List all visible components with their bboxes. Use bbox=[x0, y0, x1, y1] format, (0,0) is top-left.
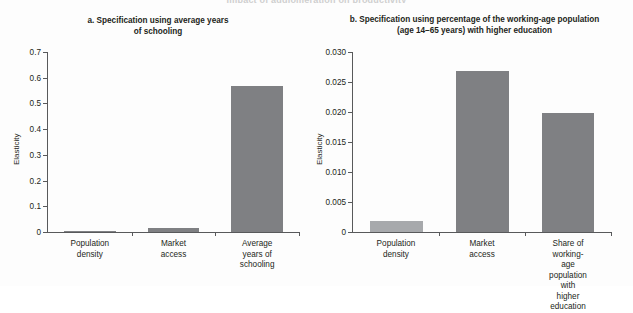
bar-market-access-b bbox=[456, 71, 509, 232]
panel-a-xlabel-0-line1: Population bbox=[70, 239, 109, 248]
panel-b-xlabel-2-line3: higher education bbox=[550, 292, 586, 312]
panel-a-ytick-6 bbox=[43, 206, 48, 207]
panel-b-ytick-label-5: 0.005 bbox=[326, 197, 347, 206]
panel-b-xlabel-2: Share of working-age population with hig… bbox=[546, 239, 589, 313]
panel-a-y-axis-label: Elasticity bbox=[12, 133, 21, 165]
panel-a-xlabel-2-line1: Average years of bbox=[242, 239, 272, 259]
panel-a-ytick-5 bbox=[43, 181, 48, 182]
panel-a-ytick-label-1: 0.6 bbox=[30, 73, 41, 82]
panel-a-ytick-label-5: 0.2 bbox=[30, 176, 41, 185]
panel-a-ytick-label-7: 0 bbox=[36, 228, 41, 237]
bar-average-years-schooling-a bbox=[231, 86, 282, 232]
panel-b-title-line2: (age 14–65 years) with higher education bbox=[397, 26, 552, 35]
panel-a-xlabel-1-line1: Market bbox=[161, 239, 186, 248]
panel-b-ytick-5 bbox=[348, 202, 353, 203]
bar-share-working-age-higher-education-b bbox=[542, 113, 595, 232]
panel-a-title-line2: of schooling bbox=[134, 27, 183, 36]
panel-b-ytick-1 bbox=[348, 82, 353, 83]
panel-a-xlabel-1: Market access bbox=[161, 239, 186, 260]
bar-population-density-b bbox=[370, 221, 423, 232]
panel-a-ytick-3 bbox=[43, 129, 48, 130]
panel-a-ytick-2 bbox=[43, 103, 48, 104]
panel-a-ytick-7 bbox=[43, 232, 48, 233]
panel-a-title-line1: a. Specification using average years bbox=[87, 16, 228, 25]
panel-a-ytick-0 bbox=[43, 52, 48, 53]
bar-market-access-a bbox=[148, 228, 199, 232]
panel-b-ytick-3 bbox=[348, 142, 353, 143]
panel-a-xlabel-2-line2: schooling bbox=[240, 260, 275, 269]
panel-a-ytick-4 bbox=[43, 155, 48, 156]
panel-a-ytick-label-3: 0.4 bbox=[30, 125, 41, 134]
panel-b-y-axis-label: Elasticity bbox=[315, 133, 324, 165]
panel-b-ytick-2 bbox=[348, 112, 353, 113]
panel-b-ytick-label-1: 0.025 bbox=[326, 77, 347, 86]
panel-a-ytick-label-0: 0.7 bbox=[30, 48, 41, 57]
panel-b-xlabel-1: Market access bbox=[469, 239, 494, 260]
panel-a-xtick-1 bbox=[132, 232, 133, 236]
panel-a-xtick-3 bbox=[299, 232, 300, 236]
bar-population-density-a bbox=[64, 231, 115, 232]
panel-a-ytick-label-2: 0.5 bbox=[30, 99, 41, 108]
chart-panel-a: a. Specification using average years of … bbox=[0, 0, 316, 286]
panel-b-ytick-label-6: 0 bbox=[341, 228, 346, 237]
panel-a-ytick-label-4: 0.3 bbox=[30, 150, 41, 159]
panel-b-title: b. Specification using percentage of the… bbox=[316, 14, 633, 36]
panel-b-ytick-label-3: 0.015 bbox=[326, 138, 347, 147]
panel-b-ytick-label-2: 0.020 bbox=[326, 107, 347, 116]
panel-a-xtick-2 bbox=[215, 232, 216, 236]
panel-b-ytick-6 bbox=[348, 232, 353, 233]
panel-b-xtick-2 bbox=[525, 232, 526, 236]
panel-a-xlabel-0: Population density bbox=[70, 239, 109, 260]
panel-a-xlabel-1-line2: access bbox=[161, 250, 186, 259]
panel-b-ytick-0 bbox=[348, 52, 353, 53]
panel-b-xlabel-0-line2: density bbox=[383, 250, 409, 259]
panel-b-xlabel-1-line1: Market bbox=[469, 239, 494, 248]
panel-b-xlabel-2-line1: Share of working-age bbox=[553, 239, 584, 269]
panel-b-xlabel-0-line1: Population bbox=[377, 239, 416, 248]
panel-a-plot-area: 0.7 0.6 0.5 0.4 0.3 0.2 0.1 0 bbox=[47, 52, 299, 233]
panel-a-title: a. Specification using average years of … bbox=[0, 15, 316, 37]
panel-a-xlabel-2: Average years of schooling bbox=[236, 239, 278, 271]
panel-a-ytick-label-6: 0.1 bbox=[30, 202, 41, 211]
panel-b-xtick-1 bbox=[439, 232, 440, 236]
panel-b-xlabel-2-line2: population with bbox=[549, 271, 587, 291]
panel-a-ytick-1 bbox=[43, 78, 48, 79]
panel-a-xlabel-0-line2: density bbox=[77, 250, 103, 259]
panel-b-plot-area: 0.030 0.025 0.020 0.015 0.010 0.005 0 Po… bbox=[352, 52, 611, 233]
panel-b-xtick-3 bbox=[611, 232, 612, 236]
panel-b-xlabel-1-line2: access bbox=[469, 250, 494, 259]
panel-b-ytick-label-0: 0.030 bbox=[326, 48, 347, 57]
panel-b-ytick-label-4: 0.010 bbox=[326, 167, 347, 176]
panel-b-xlabel-0: Population density bbox=[377, 239, 416, 260]
panel-b-ytick-4 bbox=[348, 172, 353, 173]
panel-b-title-line1: b. Specification using percentage of the… bbox=[350, 15, 600, 24]
